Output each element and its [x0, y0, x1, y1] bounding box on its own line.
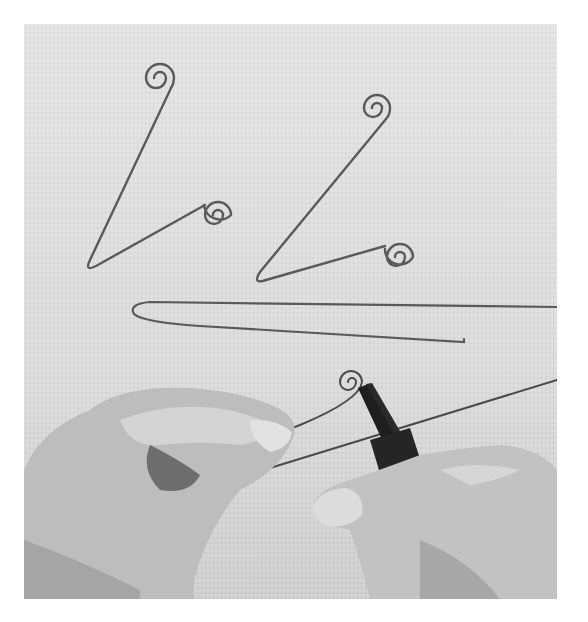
wire-hook-left	[88, 64, 231, 268]
bent-wire	[133, 302, 557, 342]
right-hand	[312, 445, 557, 599]
photograph	[24, 24, 557, 599]
wire-hook-center	[257, 95, 413, 281]
left-hand	[24, 388, 295, 599]
